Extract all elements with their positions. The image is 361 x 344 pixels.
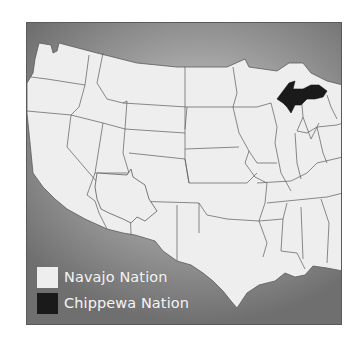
chippewa-swatch <box>37 293 58 314</box>
map-frame: Navajo Nation Chippewa Nation <box>26 22 342 325</box>
legend-label: Navajo Nation <box>64 269 168 285</box>
map-legend: Navajo Nation Chippewa Nation <box>37 265 189 317</box>
legend-item-navajo: Navajo Nation <box>37 265 189 289</box>
navajo-swatch <box>37 267 58 288</box>
legend-label: Chippewa Nation <box>64 295 189 311</box>
legend-item-chippewa: Chippewa Nation <box>37 291 189 315</box>
